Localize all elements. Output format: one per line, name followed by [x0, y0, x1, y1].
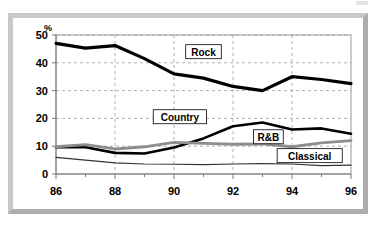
y-tick-label: 10: [36, 140, 48, 152]
x-tick-label: 96: [345, 185, 357, 197]
y-tick-label: 0: [42, 168, 48, 180]
y-tick-label: 30: [36, 85, 48, 97]
x-tick-label: 86: [50, 185, 62, 197]
figure-inner: 01020304050 868890929496 RockCountryR&BC…: [13, 18, 363, 209]
y-tick-label: 20: [36, 112, 48, 124]
y-axis-unit-label: %: [44, 23, 52, 33]
data-series-group: [56, 43, 351, 165]
series-line-r-b: [56, 141, 351, 149]
series-label-text: R&B: [258, 132, 280, 143]
series-label-text: Country: [161, 112, 200, 123]
scan-artifact: [356, 1, 368, 5]
series-label-country: Country: [153, 110, 206, 124]
series-label-classical: Classical: [277, 149, 342, 163]
line-chart: 01020304050 868890929496 RockCountryR&BC…: [13, 18, 363, 209]
y-tick-label: 40: [36, 57, 48, 69]
series-label-r-b: R&B: [254, 130, 284, 144]
x-axis-tick-labels: 868890929496: [50, 185, 357, 197]
y-axis-tick-labels: 01020304050: [36, 29, 48, 180]
series-label-text: Classical: [288, 151, 332, 162]
x-tick-label: 94: [286, 185, 299, 197]
series-label-rock: Rock: [186, 45, 222, 59]
x-tick-label: 88: [109, 185, 121, 197]
x-tick-label: 92: [227, 185, 239, 197]
x-tick-label: 90: [168, 185, 180, 197]
figure-frame: 01020304050 868890929496 RockCountryR&BC…: [8, 13, 368, 214]
series-label-text: Rock: [191, 47, 216, 58]
